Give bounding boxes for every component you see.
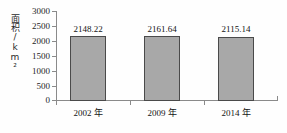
y-axis-title: 面积/km²: [6, 14, 20, 72]
bar-2009[interactable]: [144, 36, 180, 101]
y-tick-label-text: 500: [22, 82, 50, 91]
y-tick-mark: [52, 41, 57, 42]
y-tick-label-2000: 2000: [20, 37, 50, 46]
y-tick-label-1500: 1500: [20, 52, 50, 61]
y-tick-mark: [52, 86, 57, 87]
y-tick-label-500: 500: [20, 82, 50, 91]
x-tick-mark: [204, 101, 205, 105]
x-category-label-2009: 2009 年: [134, 108, 190, 118]
y-tick-label-1000: 1000: [20, 67, 50, 76]
y-tick-mark: [52, 11, 57, 12]
y-tick-mark: [52, 26, 57, 27]
y-tick-label-text: 2500: [22, 22, 50, 31]
x-category-label-2002: 2002 年: [60, 108, 116, 118]
x-tick-mark: [130, 101, 131, 105]
bar-2002[interactable]: [70, 36, 106, 101]
bar-value-label-2014: 2115.14: [208, 25, 264, 34]
y-tick-label-3000: 3000: [20, 7, 50, 16]
y-tick-label-0: 0: [20, 96, 50, 105]
x-category-label-2014: 2014 年: [208, 108, 264, 118]
bar-value-label-2009: 2161.64: [134, 25, 190, 34]
y-tick-mark: [52, 56, 57, 57]
y-tick-label-text: 1500: [22, 52, 50, 61]
bar-2014[interactable]: [218, 37, 254, 101]
y-tick-label-text: 0: [22, 96, 50, 105]
y-tick-label-text: 2000: [22, 37, 50, 46]
x-axis-endcap: [277, 96, 278, 101]
bar-value-label-2002: 2148.22: [60, 25, 116, 34]
bar-chart: 面积/km² 3000 2500 2000 1500 1000 500 0 21…: [0, 0, 287, 133]
y-tick-label-2500: 2500: [20, 22, 50, 31]
y-tick-mark: [52, 71, 57, 72]
y-tick-label-text: 3000: [22, 7, 50, 16]
y-tick-label-text: 1000: [22, 67, 50, 76]
x-tick-mark: [56, 101, 57, 105]
